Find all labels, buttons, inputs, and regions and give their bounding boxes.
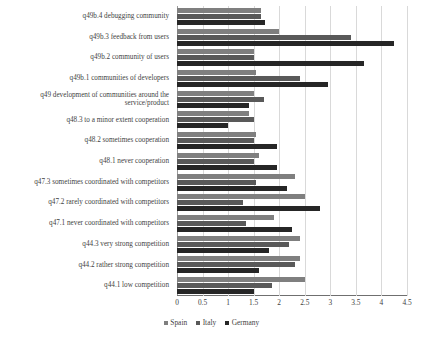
legend-label: Spain [170,318,187,327]
bar-group [177,47,407,68]
bar-germany [177,123,228,128]
plot-area [177,6,407,296]
category-label: q47.1 never coordinated with competitors [0,213,173,234]
x-tick-label: 4.5 [402,298,411,307]
category-label: q44.3 very strong competition [0,234,173,255]
bar-germany [177,186,287,191]
bar-group [177,151,407,172]
bar-spain [177,194,305,199]
category-label: q48.1 never cooperation [0,151,173,172]
legend-swatch-icon [196,321,200,325]
bar-italy [177,138,254,143]
bar-germany [177,227,292,232]
bar-group [177,213,407,234]
bar-germany [177,165,277,170]
bar-italy [177,76,300,81]
category-label: q48.3 to a minor extent cooperation [0,110,173,131]
bar-germany [177,41,394,46]
bar-group [177,110,407,131]
x-tick-label: 3 [328,298,332,307]
x-tick-label: 0.5 [198,298,207,307]
category-label-text: q47.3 sometimes coordinated with competi… [34,178,169,187]
bar-group [177,89,407,110]
category-label-text: q49 development of communities around th… [0,91,169,108]
bar-italy [177,55,254,60]
bar-italy [177,97,264,102]
bar-germany [177,206,320,211]
x-tick-label: 0 [175,298,179,307]
x-tick-label: 3.5 [351,298,360,307]
bar-italy [177,262,295,267]
bar-germany [177,82,328,87]
legend-label: Germany [232,318,260,327]
bar-germany [177,103,249,108]
category-label-text: q44.2 rather strong competition [78,261,169,270]
bar-spain [177,49,254,54]
category-label-text: q49b.1 communities of developers [70,74,169,83]
category-label: q44.2 rather strong competition [0,255,173,276]
category-label-text: q48.3 to a minor extent cooperation [66,116,169,125]
gridline [407,6,408,296]
legend-label: Italy [203,318,217,327]
bar-group [177,172,407,193]
x-tick-label: 4 [380,298,384,307]
bar-italy [177,221,246,226]
bar-germany [177,248,269,253]
legend-item-germany[interactable]: Germany [225,318,259,327]
category-label-text: q44.3 very strong competition [82,240,169,249]
bar-spain [177,153,259,158]
bar-italy [177,242,289,247]
bar-spain [177,111,249,116]
category-label: q49b.2 community of users [0,47,173,68]
bar-germany [177,289,254,294]
bar-italy [177,14,261,19]
bar-spain [177,91,254,96]
x-tick-label: 1.5 [249,298,258,307]
bar-italy [177,283,272,288]
bar-spain [177,277,305,282]
category-label-text: q44.1 low competition [104,281,169,290]
x-tick-label: 1 [226,298,230,307]
bar-germany [177,20,265,25]
legend-swatch-icon [225,321,229,325]
bar-chart: q49b.4 debugging communityq49b.3 feedbac… [0,0,423,345]
category-label: q49b.4 debugging community [0,6,173,27]
bar-italy [177,35,351,40]
bar-group [177,130,407,151]
bar-spain [177,29,279,34]
x-tick-label: 2 [277,298,281,307]
category-label: q49b.1 communities of developers [0,68,173,89]
bar-group [177,68,407,89]
bar-group [177,27,407,48]
category-label-text: q49b.3 feedback from users [89,33,169,42]
bar-italy [177,159,254,164]
bar-group [177,275,407,296]
category-label-text: q49b.4 debugging community [83,12,169,21]
category-label-text: q47.2 rarely coordinated with competitor… [48,198,169,207]
category-label: q49b.3 feedback from users [0,27,173,48]
legend-item-spain[interactable]: Spain [164,318,187,327]
category-label-text: q49b.2 community of users [90,53,169,62]
bar-group [177,255,407,276]
bar-group [177,6,407,27]
category-label: q47.3 sometimes coordinated with competi… [0,172,173,193]
category-label: q49 development of communities around th… [0,89,173,110]
bar-spain [177,215,274,220]
bar-group [177,234,407,255]
x-axis-tick-labels: 00.511.522.533.544.5 [177,298,407,310]
category-label-text: q48.2 sometimes cooperation [85,136,169,145]
category-label-text: q48.1 never cooperation [99,157,169,166]
bar-germany [177,268,259,273]
bar-italy [177,180,256,185]
bar-spain [177,174,295,179]
legend-item-italy[interactable]: Italy [196,318,216,327]
bar-spain [177,236,300,241]
category-label: q44.1 low competition [0,275,173,296]
legend-swatch-icon [164,321,168,325]
category-label-text: q47.1 never coordinated with competitors [49,219,169,228]
category-label: q48.2 sometimes cooperation [0,130,173,151]
bar-italy [177,200,243,205]
bar-germany [177,61,364,66]
bar-group [177,192,407,213]
category-label: q47.2 rarely coordinated with competitor… [0,192,173,213]
